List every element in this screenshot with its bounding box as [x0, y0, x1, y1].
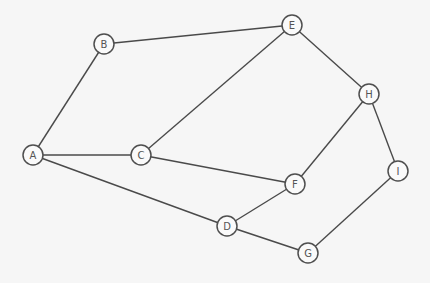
node-h: H: [359, 84, 379, 104]
node-label: C: [138, 150, 145, 161]
node-label: F: [292, 179, 298, 190]
node-c: C: [131, 145, 151, 165]
graph-canvas: ABCDEFGHI: [0, 0, 430, 283]
node-label: H: [365, 89, 373, 100]
edge-b-e: [104, 25, 292, 44]
graph-diagram: ABCDEFGHI: [0, 0, 430, 283]
node-d: D: [217, 216, 237, 236]
node-label: B: [101, 39, 108, 50]
edge-f-d: [227, 184, 295, 226]
edge-d-g: [227, 226, 308, 253]
node-label: I: [397, 166, 400, 177]
edge-c-f: [141, 155, 295, 184]
node-e: E: [282, 15, 302, 35]
nodes-layer: ABCDEFGHI: [23, 15, 408, 263]
edges-layer: [33, 25, 398, 253]
node-label: D: [223, 221, 231, 232]
edge-c-e: [141, 25, 292, 155]
node-label: A: [30, 150, 37, 161]
node-g: G: [298, 243, 318, 263]
node-a: A: [23, 145, 43, 165]
edge-a-b: [33, 44, 104, 155]
node-label: E: [289, 20, 295, 31]
node-i: I: [388, 161, 408, 181]
edge-h-f: [295, 94, 369, 184]
edge-g-i: [308, 171, 398, 253]
node-label: G: [304, 248, 312, 259]
node-f: F: [285, 174, 305, 194]
edge-h-i: [369, 94, 398, 171]
edge-e-h: [292, 25, 369, 94]
node-b: B: [94, 34, 114, 54]
